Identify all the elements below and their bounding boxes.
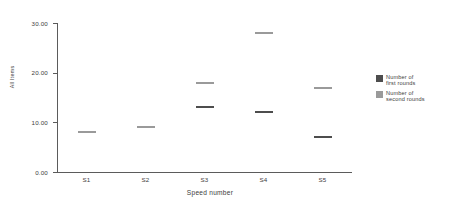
x-axis-tick-label: S5 xyxy=(308,176,338,183)
x-axis-line xyxy=(57,172,352,173)
x-axis-tick-label: S2 xyxy=(131,176,161,183)
data-marker xyxy=(78,131,96,133)
x-axis-tick-label: S3 xyxy=(190,176,220,183)
chart-figure: All Items Speed number 0.0010.0020.0030.… xyxy=(0,0,454,211)
legend-item-first-rounds: Number of first rounds xyxy=(376,74,454,87)
data-marker xyxy=(196,106,214,108)
legend-swatch-second-rounds xyxy=(376,91,383,98)
y-axis-tick-label: 20.00 xyxy=(8,69,48,76)
x-axis-tick-label: S1 xyxy=(72,176,102,183)
legend-label-first-rounds: Number of first rounds xyxy=(386,74,415,87)
data-marker xyxy=(255,111,273,113)
y-axis-tick-label: 30.00 xyxy=(8,20,48,27)
data-marker xyxy=(196,82,214,84)
y-axis-tick-label: 0.00 xyxy=(8,169,48,176)
y-axis-tick-label: 10.00 xyxy=(8,119,48,126)
legend-item-second-rounds: Number of second rounds xyxy=(376,90,454,103)
data-marker xyxy=(314,87,332,89)
y-axis-tick xyxy=(53,122,57,123)
x-axis-tick-label: S4 xyxy=(249,176,279,183)
y-axis-line xyxy=(57,23,58,172)
y-axis-title: All Items xyxy=(9,49,15,105)
y-axis-tick xyxy=(53,172,57,173)
chart-legend: Number of first rounds Number of second … xyxy=(376,74,454,106)
x-axis-title: Speed number xyxy=(150,189,270,196)
data-marker xyxy=(137,126,155,128)
legend-label-second-rounds: Number of second rounds xyxy=(386,90,425,103)
data-marker xyxy=(255,32,273,34)
y-axis-tick xyxy=(53,73,57,74)
legend-swatch-first-rounds xyxy=(376,75,383,82)
data-marker xyxy=(314,136,332,138)
y-axis-tick xyxy=(53,23,57,24)
